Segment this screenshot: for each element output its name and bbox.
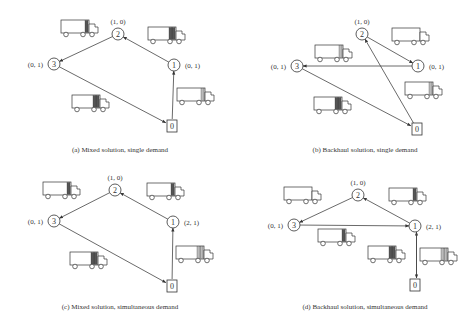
customer-node: 2(1, 0) — [110, 18, 126, 40]
depot-node: 0 — [412, 123, 422, 135]
demand-label: (2, 1) — [426, 223, 442, 231]
demand-label: (0, 1) — [28, 61, 44, 69]
svg-text:3: 3 — [295, 62, 299, 71]
truck-icon — [405, 82, 442, 99]
cargo-unit — [389, 247, 392, 259]
customer-node: 3(0, 1) — [271, 60, 303, 72]
svg-text:2: 2 — [356, 191, 360, 200]
demand-label: (0, 1) — [429, 63, 445, 71]
cargo-unit — [85, 21, 88, 33]
truck-icon — [177, 88, 214, 105]
route-edge — [365, 39, 413, 123]
cargo-unit — [335, 98, 338, 110]
cargo-unit — [338, 98, 341, 110]
caption-d: (d) Backhaul solution, simultaneous dema… — [245, 303, 475, 311]
demand-label: (1, 0) — [110, 18, 126, 26]
customer-node: 2(1, 0) — [350, 179, 366, 201]
truck-icon — [389, 188, 426, 205]
truck-icon — [368, 246, 405, 263]
svg-text:3: 3 — [52, 60, 56, 69]
customer-node: 3(0, 1) — [28, 215, 60, 227]
svg-text:0: 0 — [170, 282, 174, 291]
customer-node: 3(0, 1) — [268, 219, 300, 231]
svg-text:0: 0 — [415, 125, 419, 134]
customer-node: 1(2, 1) — [409, 220, 442, 232]
cargo-unit — [172, 28, 175, 40]
truck-icon — [70, 252, 107, 269]
demand-label: (1, 0) — [107, 174, 123, 182]
cargo-unit — [96, 96, 99, 108]
svg-text:1: 1 — [413, 222, 417, 231]
svg-text:0: 0 — [413, 281, 417, 290]
svg-text:2: 2 — [360, 30, 364, 39]
truck-icon — [314, 97, 351, 114]
svg-text:0: 0 — [170, 122, 174, 131]
truck-icon — [147, 183, 184, 200]
truck-icon — [284, 187, 321, 204]
demand-label: (1, 0) — [354, 18, 370, 26]
route-edge — [363, 198, 409, 223]
route-edge — [120, 193, 167, 219]
svg-text:2: 2 — [113, 186, 117, 195]
cargo-unit — [200, 247, 203, 259]
caption-b: (b) Backhaul solution, single demand — [245, 146, 475, 154]
cargo-unit — [342, 230, 345, 242]
depot-node: 0 — [410, 279, 420, 291]
depot-node: 0 — [167, 120, 177, 132]
demand-label: (0, 1) — [271, 63, 287, 71]
cargo-unit — [94, 253, 97, 265]
cargo-unit — [392, 247, 395, 259]
cargo-unit — [413, 189, 416, 201]
svg-text:3: 3 — [52, 217, 56, 226]
cargo-unit — [91, 253, 94, 265]
demand-label: (0, 1) — [185, 62, 201, 70]
truck-icon — [420, 248, 457, 265]
cargo-unit — [197, 247, 200, 259]
truck-icon — [392, 28, 429, 45]
cargo-unit — [169, 28, 172, 40]
cargo-unit — [441, 249, 444, 261]
demand-label: (1, 0) — [350, 179, 366, 187]
route-edge — [123, 37, 169, 62]
truck-icon — [72, 95, 109, 112]
trucks-layer — [43, 20, 457, 269]
route-edge — [172, 228, 173, 279]
svg-text:1: 1 — [171, 218, 175, 227]
svg-text:2: 2 — [116, 30, 120, 39]
svg-text:1: 1 — [416, 62, 420, 71]
truck-icon — [148, 27, 185, 44]
cargo-unit — [93, 96, 96, 108]
cargo-unit — [171, 184, 174, 196]
caption-a: (a) Mixed solution, single demand — [0, 146, 240, 154]
svg-text:3: 3 — [292, 221, 296, 230]
demand-label: (0, 1) — [268, 222, 284, 230]
route-edge — [300, 225, 409, 226]
customer-node: 2(1, 0) — [107, 174, 123, 196]
diagram-canvas: 01(0, 1)2(1, 0)3(0, 1)01(0, 1)2(1, 0)3(0… — [0, 0, 475, 323]
cargo-unit — [67, 183, 70, 195]
truck-icon — [43, 182, 80, 199]
demand-label: (2, 1) — [184, 219, 200, 227]
truck-icon — [176, 246, 213, 263]
truck-icon — [315, 45, 352, 62]
edges-layer — [59, 37, 416, 283]
cargo-unit — [201, 89, 204, 101]
route-edge — [172, 71, 174, 119]
customer-node: 2(1, 0) — [354, 18, 370, 40]
demand-label: (0, 1) — [28, 218, 44, 226]
customer-node: 1(0, 1) — [168, 59, 201, 71]
cargo-unit — [339, 46, 342, 58]
customer-node: 3(0, 1) — [28, 58, 60, 70]
truck-icon — [318, 229, 355, 246]
customer-node: 1(2, 1) — [167, 216, 200, 228]
svg-text:1: 1 — [172, 61, 176, 70]
route-edge — [59, 37, 112, 62]
caption-c: (c) Mixed solution, simultaneous demand — [0, 303, 240, 311]
depot-node: 0 — [167, 280, 177, 292]
truck-icon — [61, 20, 98, 37]
cargo-unit — [429, 83, 432, 95]
customer-node: 1(0, 1) — [412, 60, 445, 72]
cargo-unit — [444, 249, 447, 261]
